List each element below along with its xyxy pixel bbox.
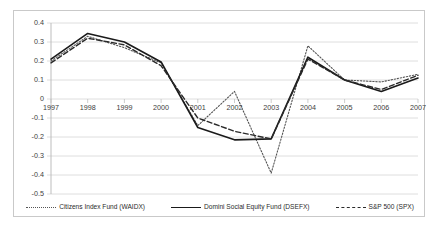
x-axis-tick-label: 2000 — [144, 104, 178, 111]
x-axis-tick-label: 2002 — [218, 104, 252, 111]
y-axis-tick-label: 0.2 — [18, 57, 44, 64]
x-axis-tick-label: 2007 — [401, 104, 435, 111]
y-axis-tick-label: -0.5 — [18, 190, 44, 197]
legend-label: S&P 500 (SPX) — [369, 203, 414, 210]
y-axis-tick-label: -0.1 — [18, 114, 44, 121]
chart-legend: Citizens Index Fund (WAIDX) Domini Socia… — [14, 203, 426, 210]
series-line — [51, 33, 418, 139]
legend-item-sp-500[interactable]: S&P 500 (SPX) — [336, 203, 414, 210]
x-axis-tick-label: 2001 — [181, 104, 215, 111]
x-axis-tick-label: 1997 — [34, 104, 68, 111]
x-axis-tick-label: 2006 — [364, 104, 398, 111]
y-axis-tick-label: 0.4 — [18, 19, 44, 26]
y-axis-tick-label: 0.3 — [18, 38, 44, 45]
chart-container: 0.40.30.20.10-0.1-0.2-0.3-0.4-0.51997199… — [13, 10, 425, 217]
x-axis-tick-label: 2004 — [291, 104, 325, 111]
series-line — [51, 38, 418, 139]
legend-label: Citizens Index Fund (WAIDX) — [59, 203, 145, 210]
y-axis-tick-label: 0.1 — [18, 76, 44, 83]
x-axis-tick-label: 1999 — [107, 104, 141, 111]
legend-label: Domini Social Equity Fund (DSEFX) — [204, 203, 310, 210]
y-axis-tick-label: -0.3 — [18, 152, 44, 159]
dashed-line-icon — [336, 204, 366, 210]
x-axis-tick-label: 1998 — [71, 104, 105, 111]
solid-line-icon — [171, 204, 201, 210]
y-axis-tick-label: -0.4 — [18, 171, 44, 178]
y-axis-tick-label: 0 — [18, 95, 44, 102]
x-axis-tick-label: 2005 — [328, 104, 362, 111]
x-axis-tick-label: 2003 — [254, 104, 288, 111]
y-axis-tick-label: -0.2 — [18, 133, 44, 140]
chart-svg — [14, 11, 426, 218]
legend-item-citizens-index-fund[interactable]: Citizens Index Fund (WAIDX) — [26, 203, 145, 210]
legend-item-domini-social-equity-fund[interactable]: Domini Social Equity Fund (DSEFX) — [171, 203, 310, 210]
dotted-line-icon — [26, 204, 56, 210]
plot-area: 0.40.30.20.10-0.1-0.2-0.3-0.4-0.51997199… — [14, 11, 426, 218]
